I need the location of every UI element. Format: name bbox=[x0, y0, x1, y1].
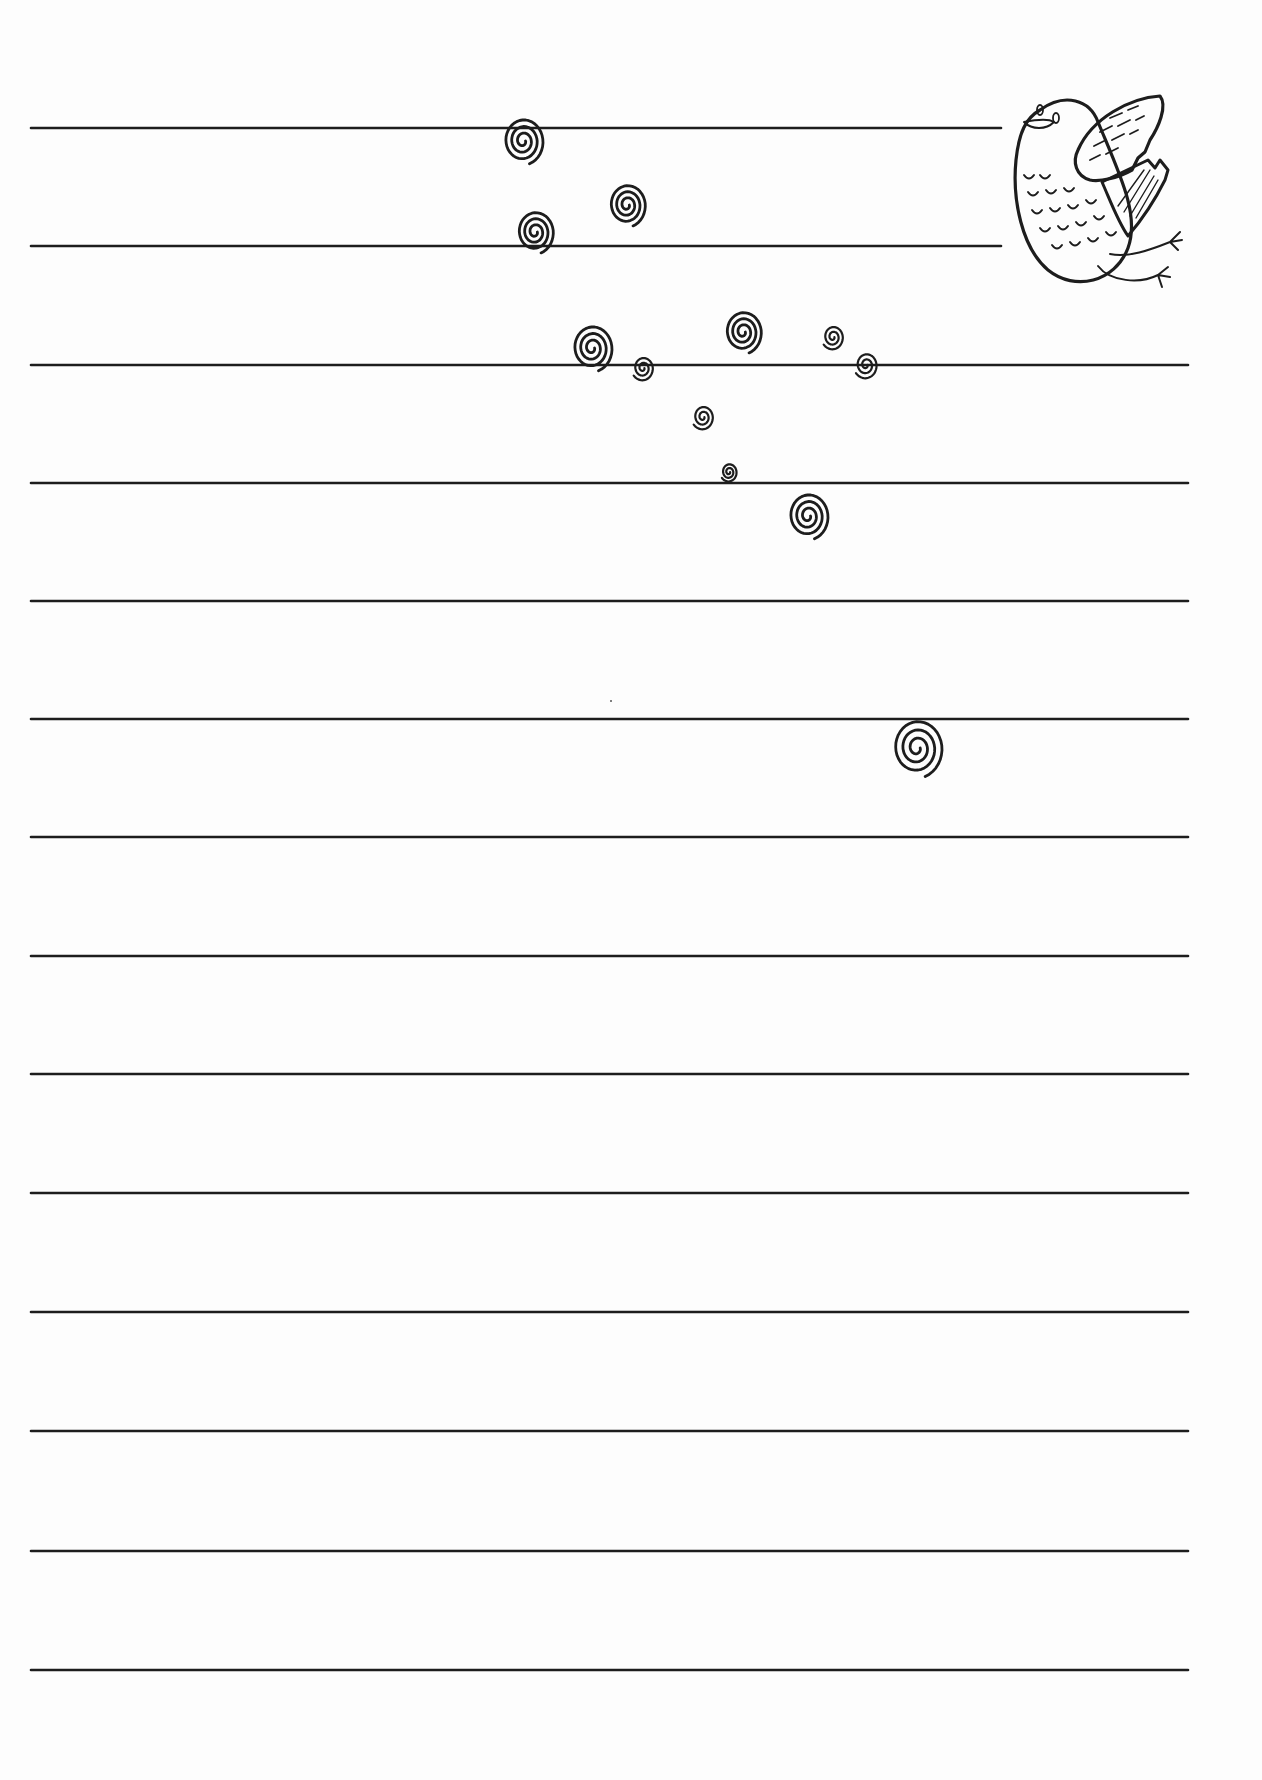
lined-paper-page bbox=[0, 0, 1262, 1780]
bird-illustration bbox=[0, 0, 1262, 1780]
stray-ink-dot bbox=[610, 700, 612, 702]
bird-icon bbox=[1015, 96, 1182, 287]
